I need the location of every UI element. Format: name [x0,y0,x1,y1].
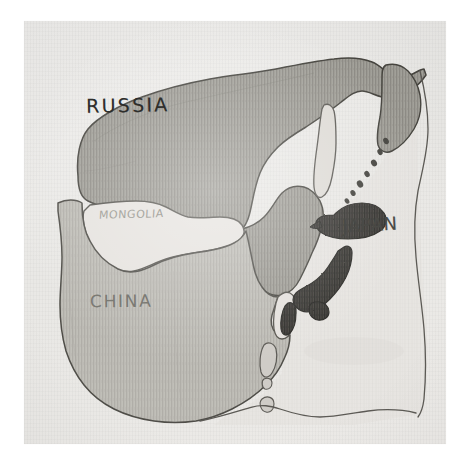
country-label-russia: RUSSIA [86,93,170,117]
hand-drawn-map-figure: RUSSIA MONGOLIA CHINA JAPAN [0,0,468,474]
country-label-mongolia: MONGOLIA [99,207,165,222]
country-label-china: CHINA [90,291,153,312]
island-small-south-b[interactable] [260,397,274,412]
country-label-japan: JAPAN [341,213,398,237]
island-small-south-a[interactable] [262,378,272,389]
